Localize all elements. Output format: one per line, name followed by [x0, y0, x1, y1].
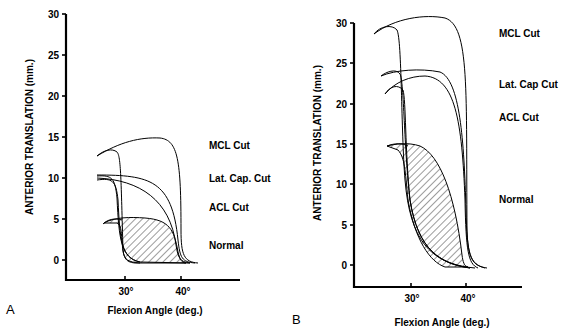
panel-a: 30 25 20 15 10 5 0 30° 40° ANTERIOR TRAN…	[6, 9, 271, 317]
svg-text:40°: 40°	[175, 286, 190, 297]
svg-text:20: 20	[336, 99, 348, 110]
svg-text:5: 5	[53, 214, 59, 225]
y-axis-label-a: ANTERIOR TRANSLATION (mm.)	[24, 59, 35, 215]
svg-text:Lat. Cap Cut: Lat. Cap Cut	[499, 79, 559, 90]
svg-text:Normal: Normal	[209, 240, 244, 251]
svg-text:Normal: Normal	[499, 194, 534, 205]
svg-text:30°: 30°	[404, 293, 419, 304]
svg-text:15: 15	[48, 132, 60, 143]
x-axis-label-b: Flexion Angle (deg.)	[394, 317, 489, 328]
series-labels-a: MCL Cut Lat. Cap. Cut ACL Cut Normal	[209, 140, 271, 251]
figure: 30 25 20 15 10 5 0 30° 40° ANTERIOR TRAN…	[0, 0, 572, 334]
svg-text:25: 25	[48, 50, 60, 61]
x-axis-label-a: Flexion Angle (deg.)	[107, 305, 202, 316]
svg-text:10: 10	[48, 173, 60, 184]
svg-text:15: 15	[336, 139, 348, 150]
panel-letter-a: A	[6, 302, 15, 317]
svg-text:40°: 40°	[460, 293, 475, 304]
svg-text:30°: 30°	[118, 286, 133, 297]
svg-text:10: 10	[336, 179, 348, 190]
svg-text:ACL Cut: ACL Cut	[209, 202, 249, 213]
svg-text:Lat. Cap. Cut: Lat. Cap. Cut	[209, 173, 271, 184]
svg-text:30: 30	[48, 9, 60, 20]
panel-letter-b: B	[292, 312, 301, 327]
svg-text:0: 0	[341, 260, 347, 271]
svg-text:ACL Cut: ACL Cut	[499, 112, 539, 123]
y-tick-labels-a: 30 25 20 15 10 5 0	[48, 9, 60, 266]
svg-text:5: 5	[341, 220, 347, 231]
svg-text:MCL Cut: MCL Cut	[499, 28, 541, 39]
svg-text:30: 30	[336, 18, 348, 29]
svg-text:MCL Cut: MCL Cut	[209, 140, 251, 151]
y-axis-label-b: ANTERIOR TRANSLATION (mm.)	[312, 65, 323, 221]
y-tick-labels-b: 30 25 20 15 10 5 0	[336, 18, 348, 271]
panel-b: 30 25 20 15 10 5 0 30° 40° ANTERIOR TRAN…	[292, 17, 559, 328]
svg-text:20: 20	[48, 91, 60, 102]
series-labels-b: MCL Cut Lat. Cap Cut ACL Cut Normal	[499, 28, 559, 205]
svg-text:25: 25	[336, 58, 348, 69]
svg-text:0: 0	[53, 255, 59, 266]
